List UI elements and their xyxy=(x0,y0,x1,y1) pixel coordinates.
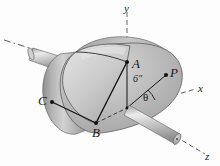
label-point-B: B xyxy=(92,126,100,139)
label-axis-z: z xyxy=(205,151,209,162)
point-marker-P xyxy=(164,73,168,77)
point-marker-A xyxy=(125,60,129,64)
mechanics-figure: A B C P y x z 6″ θ xyxy=(0,0,220,166)
label-dimension-radius: 6″ xyxy=(133,74,142,84)
label-axis-x: x xyxy=(198,83,203,94)
label-axis-y: y xyxy=(124,3,129,14)
label-point-C: C xyxy=(38,94,47,107)
label-angle-theta: θ xyxy=(143,92,148,103)
label-point-A: A xyxy=(132,57,140,70)
figure-canvas xyxy=(0,0,220,166)
point-marker-C xyxy=(50,100,54,104)
point-marker-origin xyxy=(126,107,129,110)
label-point-P: P xyxy=(170,66,178,79)
